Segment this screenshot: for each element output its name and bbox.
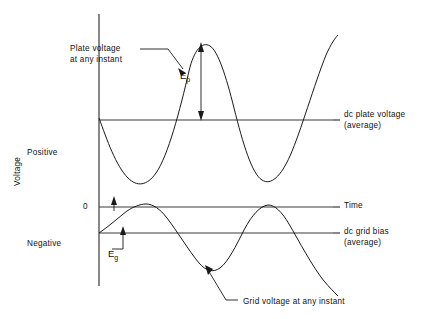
ep-arrowhead-up — [198, 42, 204, 52]
diagram-canvas — [0, 0, 437, 319]
time-axis-label: Time — [344, 201, 363, 212]
plate-voltage-leader — [140, 49, 183, 69]
tube-voltage-waveform-diagram: Plate voltage at any instant dc plate vo… — [0, 0, 437, 319]
eg-symbol-label: Eg — [108, 248, 118, 259]
ep-symbol-label: Ep — [180, 70, 190, 81]
plate-voltage-curve — [99, 35, 338, 184]
eg-upper-arrowhead — [111, 196, 117, 205]
eg-symbol-subscript: g — [114, 254, 118, 261]
plate-voltage-callout-label: Plate voltage at any instant — [70, 44, 122, 65]
positive-axis-label: Positive — [27, 148, 58, 159]
voltage-axis-label: Voltage — [13, 157, 24, 186]
grid-voltage-callout-label: Grid voltage at any instant — [243, 297, 345, 308]
dc-grid-bias-label: dc grid bias (average) — [344, 227, 389, 248]
dc-plate-voltage-label: dc plate voltage (average) — [344, 110, 405, 131]
ep-symbol-subscript: p — [186, 76, 190, 83]
grid-voltage-leader-arrowhead — [205, 265, 213, 275]
eg-arrowhead-up — [120, 226, 126, 235]
negative-axis-label: Negative — [27, 239, 61, 250]
grid-voltage-curve — [99, 204, 338, 296]
grid-voltage-leader — [208, 270, 238, 300]
zero-tick-label: 0 — [83, 202, 88, 213]
